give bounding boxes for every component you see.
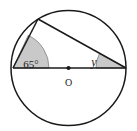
- center-label-o: O: [65, 77, 72, 88]
- angle-y-label: y: [90, 55, 97, 69]
- geometry-canvas: O 65° y: [0, 0, 137, 131]
- angle-65-label: 65°: [23, 58, 38, 70]
- center-point-marker: [66, 66, 70, 70]
- chord-top-to-right: [38, 19, 126, 68]
- geometry-figure: O 65° y: [0, 0, 137, 131]
